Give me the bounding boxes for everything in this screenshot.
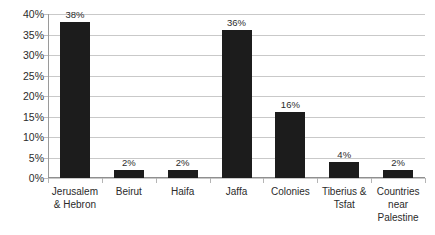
bar[interactable]: 4% (329, 162, 359, 178)
bar-value-label: 36% (227, 18, 246, 28)
y-axis-tick-label: 5% (0, 152, 44, 163)
y-axis-tick-label: 25% (0, 70, 44, 81)
x-axis-category-label: Countries near Palestine (371, 183, 425, 235)
bar-value-label: 2% (391, 158, 405, 168)
x-axis-category-label: Tiberius & Tsfat (317, 183, 371, 235)
bar-slot: 36% (210, 14, 264, 178)
x-axis-category-label: Colonies (263, 183, 317, 235)
bar[interactable]: 2% (114, 170, 144, 178)
bar-slot: 2% (102, 14, 156, 178)
y-axis-tick-label: 40% (0, 9, 44, 20)
y-axis-tick-label: 30% (0, 50, 44, 61)
y-axis-tick-label: 35% (0, 29, 44, 40)
bar[interactable]: 38% (60, 22, 90, 178)
x-axis-category-label: Jaffa (210, 183, 264, 235)
x-axis-category-label: Jerusalem & Hebron (48, 183, 102, 235)
bar[interactable]: 36% (222, 30, 252, 178)
x-axis-tick-mark (425, 178, 426, 183)
bar-value-label: 16% (281, 100, 300, 110)
y-axis-labels: 0%5%10%15%20%25%30%35%40% (0, 0, 44, 235)
bar-chart: 0%5%10%15%20%25%30%35%40% 38%2%2%36%16%4… (0, 0, 435, 235)
bar-series: 38%2%2%36%16%4%2% (48, 14, 425, 178)
bar-slot: 4% (317, 14, 371, 178)
bar-value-label: 2% (176, 158, 190, 168)
bar-slot: 2% (156, 14, 210, 178)
plot-area: 38%2%2%36%16%4%2% (48, 14, 425, 178)
y-axis-tick-label: 0% (0, 173, 44, 184)
x-axis-category-label: Haifa (156, 183, 210, 235)
y-axis-tick-label: 10% (0, 132, 44, 143)
bar[interactable]: 2% (383, 170, 413, 178)
bar-slot: 38% (48, 14, 102, 178)
x-axis-category-labels: Jerusalem & HebronBeirutHaifaJaffaColoni… (48, 183, 425, 235)
y-axis-tick-label: 20% (0, 91, 44, 102)
bar-value-label: 2% (122, 158, 136, 168)
bar[interactable]: 16% (275, 112, 305, 178)
bar-value-label: 4% (337, 150, 351, 160)
y-axis-tick-label: 15% (0, 111, 44, 122)
x-axis-category-label: Beirut (102, 183, 156, 235)
bar-value-label: 38% (65, 10, 84, 20)
bar-slot: 2% (371, 14, 425, 178)
bar[interactable]: 2% (168, 170, 198, 178)
bar-slot: 16% (263, 14, 317, 178)
